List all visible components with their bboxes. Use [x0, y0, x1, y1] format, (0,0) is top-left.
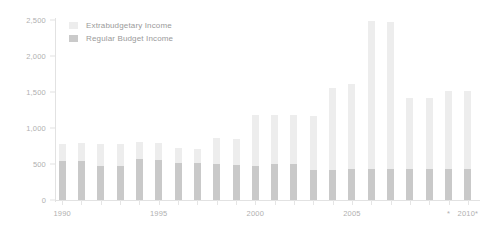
bar-regular-budget-income — [271, 164, 278, 200]
x-axis-tick-mark — [371, 200, 372, 205]
x-axis-tick-mark — [410, 200, 411, 205]
bar-group — [233, 20, 240, 200]
x-axis-tick-mark — [352, 200, 353, 205]
bar-group — [213, 20, 220, 200]
x-axis-tick-mark — [217, 200, 218, 205]
bar-regular-budget-income — [117, 166, 124, 200]
x-axis-tick-label: 2010* — [458, 209, 479, 218]
bar-regular-budget-income — [406, 169, 413, 200]
bar-group — [97, 20, 104, 200]
x-axis-tick-mark — [333, 200, 334, 205]
x-axis-tick-mark — [255, 200, 256, 205]
bar-group — [78, 20, 85, 200]
y-axis-tick-mark — [50, 20, 55, 21]
x-axis-line — [55, 200, 480, 201]
bar-regular-budget-income — [426, 169, 433, 200]
bar-group — [136, 20, 143, 200]
bar-regular-budget-income — [233, 165, 240, 200]
x-axis-tick-mark — [197, 200, 198, 205]
bar-regular-budget-income — [59, 161, 66, 200]
x-axis-tick-mark — [120, 200, 121, 205]
bar-group — [310, 20, 317, 200]
bar-group — [175, 20, 182, 200]
x-axis-tick-mark — [62, 200, 63, 205]
x-axis-tick-mark — [275, 200, 276, 205]
y-axis-tick-mark — [50, 92, 55, 93]
x-axis-tick-mark — [429, 200, 430, 205]
bar-group — [426, 20, 433, 200]
bar-regular-budget-income — [464, 169, 471, 200]
bar-regular-budget-income — [290, 164, 297, 200]
plot-area: 05001,0001,5002,0002,500 — [55, 20, 480, 200]
x-axis-tick-mark — [159, 200, 160, 205]
x-axis-tick-label: * — [447, 209, 450, 218]
x-axis-tick-mark — [449, 200, 450, 205]
bar-regular-budget-income — [368, 169, 375, 200]
bar-regular-budget-income — [387, 169, 394, 200]
bar-regular-budget-income — [310, 170, 317, 200]
bar-group — [290, 20, 297, 200]
bar-group — [252, 20, 259, 200]
x-axis-tick-mark — [294, 200, 295, 205]
bar-regular-budget-income — [155, 160, 162, 200]
y-axis-tick-mark — [50, 164, 55, 165]
x-axis-tick-mark — [101, 200, 102, 205]
y-axis-tick-mark — [50, 128, 55, 129]
x-axis-tick-mark — [468, 200, 469, 205]
bar-group — [445, 20, 452, 200]
bar-regular-budget-income — [348, 169, 355, 200]
x-axis-tick-mark — [236, 200, 237, 205]
bar-regular-budget-income — [445, 169, 452, 200]
x-axis-tick-mark — [313, 200, 314, 205]
bar-group — [155, 20, 162, 200]
bar-group — [406, 20, 413, 200]
y-axis-tick-mark — [50, 56, 55, 57]
x-axis-tick-mark — [139, 200, 140, 205]
bar-group — [271, 20, 278, 200]
x-axis-tick-mark — [391, 200, 392, 205]
x-axis-tick-label: 1990 — [53, 209, 71, 218]
x-axis-tick-mark — [178, 200, 179, 205]
bar-regular-budget-income — [175, 163, 182, 200]
x-axis-tick-label: 2005 — [343, 209, 361, 218]
bar-group — [194, 20, 201, 200]
bar-group — [329, 20, 336, 200]
bar-regular-budget-income — [136, 159, 143, 200]
x-axis-tick-label: 1995 — [150, 209, 168, 218]
bar-regular-budget-income — [329, 170, 336, 200]
bar-regular-budget-income — [194, 163, 201, 200]
bar-regular-budget-income — [252, 166, 259, 200]
bar-group — [117, 20, 124, 200]
bar-regular-budget-income — [78, 161, 85, 200]
bar-group — [387, 20, 394, 200]
bar-chart: Extrabudgetary IncomeRegular Budget Inco… — [0, 0, 495, 242]
bar-group — [59, 20, 66, 200]
bar-group — [348, 20, 355, 200]
bar-regular-budget-income — [213, 164, 220, 200]
bar-regular-budget-income — [97, 166, 104, 200]
bar-group — [368, 20, 375, 200]
x-axis-tick-label: 2000 — [247, 209, 265, 218]
bar-group — [464, 20, 471, 200]
x-axis-tick-mark — [81, 200, 82, 205]
